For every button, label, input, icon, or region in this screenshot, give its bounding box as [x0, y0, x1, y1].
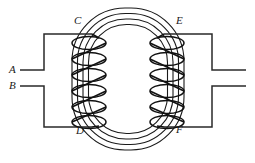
lead-right-bottom-wire	[164, 86, 246, 127]
primary-coil-lead-out	[92, 126, 99, 127]
terminal-label-a: A	[9, 64, 16, 75]
terminal-label-d: D	[76, 125, 84, 136]
transformer-diagram: .wire { fill:none; stroke:#2a2a2a; strok…	[0, 0, 255, 163]
primary-coil-turn-1	[72, 36, 106, 49]
secondary-coil-turn-1	[150, 36, 184, 49]
secondary-coil-lead-out	[157, 126, 164, 127]
transformer-schematic-svg: .wire { fill:none; stroke:#2a2a2a; strok…	[0, 0, 255, 163]
terminal-label-b: B	[9, 80, 16, 91]
core-lamination-2	[78, 14, 179, 145]
lead-b-wire	[20, 86, 92, 127]
terminal-label-c: C	[74, 15, 81, 26]
terminal-label-f: F	[176, 124, 183, 135]
terminal-label-e: E	[176, 15, 183, 26]
